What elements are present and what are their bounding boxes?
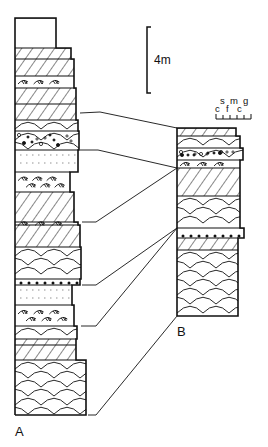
bed-fine-dotted bbox=[20, 155, 76, 163]
correlation-line bbox=[80, 150, 177, 168]
bed-trough-scallop bbox=[0, 362, 132, 414]
bed-cross-hatched bbox=[15, 104, 76, 120]
bed-pebbly-base bbox=[182, 235, 241, 238]
bed-pebbly-base bbox=[20, 282, 79, 285]
grain-size-ticks bbox=[216, 114, 251, 119]
bed-pebbly-scallop bbox=[0, 133, 119, 149]
bed-cross-hatched bbox=[15, 192, 74, 222]
bed-cross-hatched bbox=[15, 225, 80, 247]
scale-bar-label: 4m bbox=[154, 53, 171, 67]
bed-ripple bbox=[18, 310, 67, 321]
scale-bar: 4m bbox=[147, 27, 171, 93]
bed-pebbly-scallop bbox=[151, 150, 268, 157]
bed-cross-hatched bbox=[15, 339, 76, 345]
bed-ripple bbox=[180, 162, 224, 166]
correlation-line bbox=[82, 168, 177, 222]
scale-bar-bracket bbox=[147, 27, 151, 93]
bed-trough-scallop bbox=[0, 328, 119, 335]
bed-cross-hatched bbox=[15, 48, 71, 59]
bed-ripple bbox=[18, 80, 59, 84]
bed-cross-hatched bbox=[177, 128, 236, 136]
grain-size-scale: s m g c f c bbox=[215, 95, 251, 119]
bed-trough-scallop bbox=[0, 249, 132, 274]
bed-trough-scallop bbox=[0, 122, 119, 129]
correlation-line bbox=[81, 228, 177, 326]
correlation-line bbox=[80, 112, 177, 128]
grain-label-c1: c bbox=[215, 103, 220, 114]
stratigraphic-diagram: A B 4m s m g c f c bbox=[0, 0, 268, 447]
correlation-line bbox=[82, 228, 177, 285]
section-b-outline bbox=[177, 128, 244, 316]
section-a-beds bbox=[0, 18, 132, 414]
section-a-label: A bbox=[15, 424, 24, 439]
bed-cross-hatched bbox=[15, 88, 76, 104]
grain-label-s: s bbox=[220, 95, 225, 106]
section-a: A bbox=[0, 18, 132, 439]
correlation-line bbox=[88, 316, 177, 415]
section-b-label: B bbox=[177, 324, 186, 339]
grain-label-f: f bbox=[226, 103, 229, 114]
bed-trough-scallop bbox=[151, 252, 268, 313]
grain-label-g: g bbox=[243, 95, 248, 106]
bed-cross-hatched bbox=[15, 345, 76, 360]
bed-trough-scallop bbox=[151, 198, 268, 223]
bed-ripple bbox=[18, 177, 65, 188]
correlation-lines bbox=[80, 112, 177, 415]
grain-label-c2: c bbox=[237, 103, 242, 114]
bed-cross-hatched bbox=[177, 238, 238, 250]
bed-cross-hatched bbox=[15, 59, 74, 76]
bed-fine-dotted bbox=[20, 290, 70, 298]
bed-trough-scallop bbox=[151, 138, 268, 145]
bed-cross-hatched bbox=[177, 168, 240, 196]
section-b-beds bbox=[151, 128, 268, 313]
